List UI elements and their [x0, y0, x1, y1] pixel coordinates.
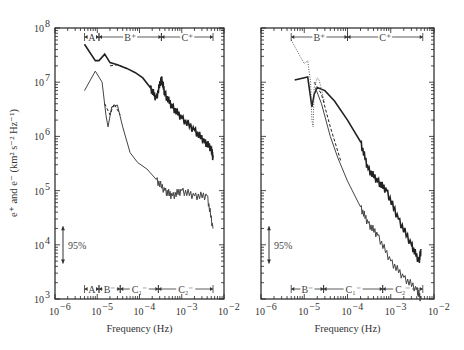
band-label: C⁺ [379, 32, 391, 43]
x-tick-label: 10 [91, 306, 101, 317]
y-tick-exponent: 5 [45, 181, 50, 192]
confidence-label: 95% [68, 240, 86, 251]
panel-left: 10−610−510−410−310−2103104105106107108Fr… [34, 18, 240, 335]
band-label: C₁⁻ [132, 284, 147, 295]
x-tick-exponent: −3 [396, 301, 407, 312]
y-tick-label: 10 [34, 23, 44, 34]
band-label: C⁺ [181, 32, 193, 43]
y-tick-label: 10 [34, 77, 44, 88]
band-label: C₂⁻ [178, 284, 193, 295]
panel-right: 10−610−510−410−310−2Frequency (Hz)B⁺C⁺B⁻… [255, 28, 450, 335]
x-tick-exponent: −3 [187, 301, 198, 312]
y-tick-label: 10 [34, 131, 44, 142]
x-tick-label: 10 [342, 306, 352, 317]
x-tick-label: 10 [298, 306, 308, 317]
y-axis-title: e⁺ and e⁻ (km² s⁻² Hz⁻¹) [8, 109, 20, 217]
band-label: B⁻ [302, 284, 314, 295]
y-tick-exponent: 4 [45, 235, 50, 246]
x-tick-exponent: −5 [102, 301, 113, 312]
band-label: B⁺ [124, 32, 136, 43]
y-tick-label: 10 [34, 186, 44, 197]
x-tick-label: 10 [218, 306, 228, 317]
band-label: B⁺ [314, 32, 326, 43]
y-tick-exponent: 3 [45, 289, 50, 300]
y-tick-exponent: 7 [45, 72, 50, 83]
series-e- [85, 71, 214, 228]
x-tick-label: 10 [385, 306, 395, 317]
band-label: A [88, 32, 96, 43]
x-tick-exponent: −4 [145, 301, 156, 312]
band-label: B⁻ [104, 284, 116, 295]
band-label: A [88, 284, 96, 295]
plot-frame [261, 28, 434, 299]
x-axis-title: Frequency (Hz) [314, 323, 381, 335]
x-tick-label: 10 [255, 306, 265, 317]
y-tick-exponent: 6 [45, 126, 50, 137]
x-tick-label: 10 [176, 306, 186, 317]
x-tick-exponent: −5 [309, 301, 320, 312]
y-tick-exponent: 8 [45, 18, 50, 29]
x-tick-exponent: −4 [353, 301, 364, 312]
confidence-label: 95% [274, 240, 292, 251]
x-tick-exponent: −2 [439, 301, 450, 312]
x-tick-label: 10 [428, 306, 438, 317]
x-tick-label: 10 [49, 306, 59, 317]
x-tick-exponent: −6 [266, 301, 277, 312]
chart-figure: 10−610−510−410−310−2103104105106107108Fr… [0, 0, 464, 350]
x-tick-label: 10 [134, 306, 144, 317]
y-tick-label: 10 [34, 240, 44, 251]
x-tick-exponent: −6 [60, 301, 71, 312]
band-label: C₁⁻ [346, 284, 361, 295]
x-tick-exponent: −2 [229, 301, 240, 312]
series-e- [85, 44, 214, 160]
y-tick-label: 10 [34, 294, 44, 305]
band-label: C₂⁻ [395, 284, 410, 295]
series-e- [315, 88, 421, 302]
x-axis-title: Frequency (Hz) [106, 323, 173, 335]
